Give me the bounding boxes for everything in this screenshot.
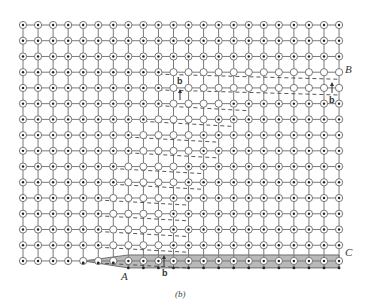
dislocation-lattice-diagram	[0, 0, 377, 308]
burgers-label-top: b	[177, 76, 183, 86]
label-B: B	[345, 63, 352, 75]
label-C: C	[345, 246, 352, 258]
label-A: A	[121, 270, 128, 282]
burgers-label-right: b	[329, 95, 335, 105]
figure-caption: (b)	[175, 289, 186, 299]
burgers-label-bottom: b	[162, 268, 168, 278]
burgers-vector-arrows	[162, 82, 334, 266]
